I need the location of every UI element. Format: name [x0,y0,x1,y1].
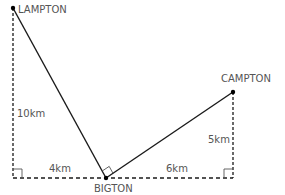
campton-label: CAMPTON [221,74,271,84]
distance-10km-label: 10km [17,109,45,119]
lampton-point [11,6,15,10]
distance-5km-label: 5km [208,135,230,145]
campton-point [231,90,235,94]
right-angle-marker-left [13,169,22,178]
right-angle-marker-bigton [102,166,113,173]
lampton-label: LAMPTON [18,5,67,15]
distance-4km-label: 4km [49,164,71,174]
bigton-point [104,176,108,180]
lampton-bigton-line [13,8,106,178]
bigton-label: BIGTON [94,184,133,194]
diagram-canvas [0,0,285,195]
right-angle-marker-right [224,169,233,178]
distance-6km-label: 6km [166,164,188,174]
